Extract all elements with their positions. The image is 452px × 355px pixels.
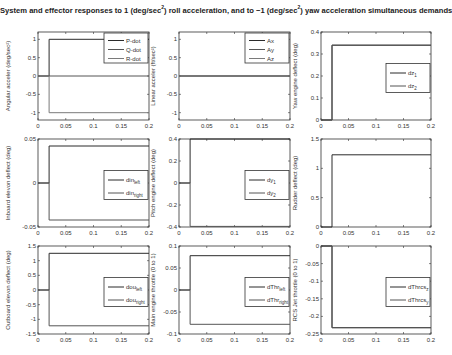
x-tick-label: 0 <box>177 123 181 129</box>
y-tick-label: 0.05 <box>165 265 177 271</box>
x-tick-label: 0.1 <box>230 123 239 129</box>
y-tick-label: 0 <box>174 287 178 293</box>
x-tick-label: 0.05 <box>201 230 213 236</box>
x-tick-label: 0.1 <box>372 123 381 129</box>
y-tick-label: -0.05 <box>163 309 177 315</box>
x-tick-label: 0.1 <box>89 230 98 236</box>
x-tick-label: 0.05 <box>201 337 213 343</box>
subplot-rudder-deflect: 00.050.10.150.200.511.5Rudder deflect (d… <box>292 136 436 236</box>
x-tick-label: 0.05 <box>60 230 72 236</box>
x-tick-label: 0.1 <box>372 230 381 236</box>
y-tick-label: -0.1 <box>309 278 320 284</box>
subplot-grid: 00.050.10.150.2-1-0.500.51Angular accele… <box>0 0 452 355</box>
y-axis-label: Main engine throttle (0 to 1) <box>150 253 156 326</box>
y-tick-label: -0.05 <box>22 224 36 230</box>
x-tick-label: 0.1 <box>372 337 381 343</box>
x-tick-label: 0.05 <box>343 123 355 129</box>
y-tick-label: -0.5 <box>26 91 37 97</box>
y-tick-label: -0.25 <box>305 331 319 337</box>
y-tick-label: 0 <box>33 180 37 186</box>
y-axis-label: Inboard elevon deflect (deg) <box>5 146 11 221</box>
y-axis-label: Angular acceler (deg/sec²) <box>5 41 11 111</box>
y-tick-label: 0.5 <box>28 272 37 278</box>
y-tick-label: -0.05 <box>305 261 319 267</box>
y-axis-label: Outboard elevon deflect (deg) <box>5 250 11 329</box>
y-tick-label: 1 <box>316 165 320 171</box>
y-tick-label: 0 <box>33 287 37 293</box>
x-tick-label: 0.1 <box>89 123 98 129</box>
legend-entry: R-dot <box>126 56 141 62</box>
x-tick-label: 0 <box>36 230 40 236</box>
x-tick-label: 0.05 <box>60 337 72 343</box>
y-tick-label: 1 <box>33 36 37 42</box>
y-tick-label: -0.1 <box>167 331 178 337</box>
x-tick-label: 0.1 <box>230 337 239 343</box>
y-tick-label: 0.5 <box>311 195 320 201</box>
subplot-angular-accel: 00.050.10.150.2-1-0.500.51Angular accele… <box>5 32 154 129</box>
x-tick-label: 0.15 <box>398 337 410 343</box>
x-tick-label: 0.2 <box>286 123 295 129</box>
y-tick-label: 0 <box>174 180 178 186</box>
x-tick-label: 0 <box>36 123 40 129</box>
y-tick-label: 0 <box>174 73 178 79</box>
y-tick-label: 0 <box>316 243 320 249</box>
y-tick-label: 1 <box>33 258 37 264</box>
legend-entry: Q-dot <box>126 47 141 53</box>
y-tick-label: 0.05 <box>24 136 36 142</box>
legend: dinleftdinright <box>104 171 148 200</box>
subplot-outboard-elevon-deflect: 00.050.10.150.2-1.5-1-0.500.511.5Outboar… <box>5 243 154 343</box>
x-tick-label: 0.15 <box>256 123 268 129</box>
x-tick-label: 0.15 <box>398 123 410 129</box>
y-axis-label: Linear acceler (ft/sec²) <box>150 46 156 106</box>
legend: douleftdouright <box>104 278 148 307</box>
subplot-rcs-jet-throttle: 00.050.10.150.2-0.25-0.2-0.15-0.1-0.050R… <box>292 243 436 343</box>
y-tick-label: 0.4 <box>169 136 178 142</box>
x-tick-label: 0.2 <box>145 337 154 343</box>
y-tick-label: 0.4 <box>311 29 320 35</box>
axes-frame <box>321 139 431 227</box>
legend: P-dotQ-dotR-dot <box>104 33 148 63</box>
x-tick-label: 0 <box>36 337 40 343</box>
x-tick-label: 0.1 <box>230 230 239 236</box>
legend-entry: Az <box>267 56 274 62</box>
y-tick-label: -0.4 <box>167 224 178 230</box>
legend: dz1dz2 <box>386 64 430 93</box>
y-tick-label: -0.2 <box>309 313 320 319</box>
legend-entry: P-dot <box>126 38 141 44</box>
x-tick-label: 0.2 <box>145 123 154 129</box>
y-tick-label: -0.5 <box>26 302 37 308</box>
y-tick-label: 1.5 <box>311 136 320 142</box>
x-tick-label: 0.2 <box>145 230 154 236</box>
x-tick-label: 0.2 <box>427 337 436 343</box>
x-tick-label: 0.15 <box>115 337 127 343</box>
y-tick-label: -0.2 <box>167 202 178 208</box>
x-tick-label: 0 <box>177 230 181 236</box>
x-tick-label: 0.15 <box>115 123 127 129</box>
y-tick-label: -0.15 <box>305 296 319 302</box>
x-tick-label: 0 <box>177 337 181 343</box>
x-tick-label: 0.15 <box>115 230 127 236</box>
x-tick-label: 0.15 <box>256 337 268 343</box>
y-tick-label: 1 <box>174 36 178 42</box>
y-tick-label: 0.1 <box>311 95 320 101</box>
y-tick-label: 1.5 <box>28 243 37 249</box>
legend: dy1dy2 <box>245 171 289 200</box>
x-tick-label: 0.15 <box>398 230 410 236</box>
y-tick-label: -1 <box>31 110 37 116</box>
y-tick-label: 0.2 <box>169 158 178 164</box>
y-axis-label: Rudder deflect (deg) <box>292 156 298 211</box>
subplot-inboard-elevon-deflect: 00.050.10.150.2-0.0500.05Inboard elevon … <box>5 136 154 236</box>
y-tick-label: -1 <box>31 316 37 322</box>
x-tick-label: 0 <box>319 230 323 236</box>
legend: dThrleftdThrright <box>245 278 289 307</box>
x-tick-label: 0.1 <box>89 337 98 343</box>
y-axis-label: Yaw engine deflect (deg) <box>292 43 298 109</box>
subplot-pitch-engine-deflect: 00.050.10.150.2-0.4-0.200.20.4Pitch engi… <box>150 136 295 236</box>
x-tick-label: 0.05 <box>343 337 355 343</box>
x-tick-label: 0 <box>319 337 323 343</box>
subplot-linear-accel: 00.050.10.150.2-1-0.500.51Linear acceler… <box>150 32 295 129</box>
y-tick-label: 0.5 <box>169 55 178 61</box>
x-tick-label: 0.2 <box>427 123 436 129</box>
x-tick-label: 0.2 <box>286 337 295 343</box>
x-tick-label: 0.2 <box>286 230 295 236</box>
